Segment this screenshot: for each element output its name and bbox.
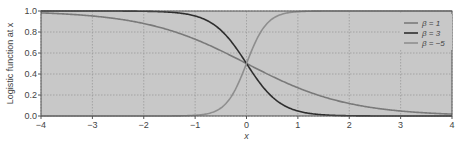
x-tick-label: −1 — [190, 120, 200, 130]
legend-label: β = −5 — [421, 39, 445, 48]
y-tick-label: 0.6 — [24, 48, 37, 58]
y-tick-label: 1.0 — [24, 6, 37, 16]
x-axis-ticks: −4−3−2−101234 — [36, 116, 455, 130]
x-tick-label: −2 — [139, 120, 149, 130]
y-tick-label: 0.8 — [24, 27, 37, 37]
x-tick-label: 0 — [244, 120, 249, 130]
x-axis-label: x — [243, 131, 249, 141]
y-axis-ticks: 0.00.20.40.60.81.0 — [24, 6, 41, 121]
y-axis-label: Logistic function at x — [5, 22, 15, 104]
legend-label: β = 3 — [421, 29, 441, 38]
logistic-chart: −4−3−2−101234 0.00.20.40.60.81.0 x Logis… — [0, 0, 473, 143]
x-tick-label: −3 — [87, 120, 97, 130]
y-tick-label: 0.4 — [24, 69, 37, 79]
x-tick-label: −4 — [36, 120, 46, 130]
y-tick-label: 0.2 — [24, 90, 37, 100]
x-tick-label: 2 — [347, 120, 352, 130]
y-tick-label: 0.0 — [24, 111, 37, 121]
legend: β = 1β = 3β = −5 — [400, 14, 452, 50]
x-tick-label: 4 — [449, 120, 454, 130]
x-tick-label: 3 — [398, 120, 403, 130]
x-tick-label: 1 — [295, 120, 300, 130]
legend-label: β = 1 — [421, 19, 440, 28]
